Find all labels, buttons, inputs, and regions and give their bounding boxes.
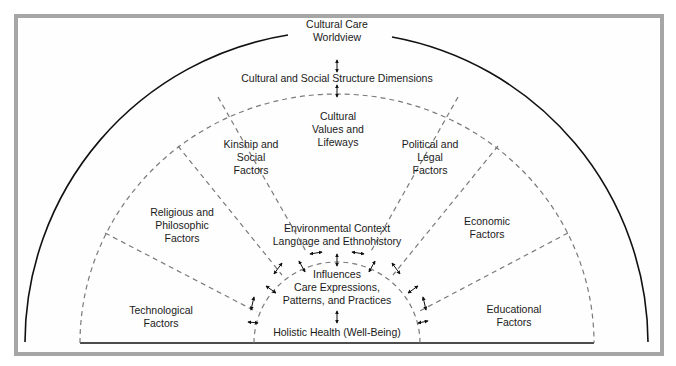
- factor-political-legal: Political and Legal Factors: [402, 138, 459, 177]
- cultural-social-structure-label: Cultural and Social Structure Dimensions: [241, 72, 432, 85]
- holistic-health-label: Holistic Health (Well-Being): [273, 326, 401, 339]
- factor-religious-philosophic: Religious and Philosophic Factors: [150, 206, 214, 245]
- factor-cultural-values: Cultural Values and Lifeways: [312, 110, 364, 149]
- factor-kinship-social: Kinship and Social Factors: [224, 138, 279, 177]
- factor-technological: Technological Factors: [129, 304, 193, 330]
- factor-educational: Educational Factors: [487, 303, 542, 329]
- care-expressions-label: Influences Care Expressions, Patterns, a…: [283, 268, 392, 307]
- cultural-care-worldview-label: Cultural Care Worldview: [306, 18, 368, 44]
- sunrise-model-diagram: [0, 0, 676, 366]
- environmental-context-label: Environmental Context Language and Ethno…: [273, 222, 401, 248]
- factor-economic: Economic Factors: [464, 215, 510, 241]
